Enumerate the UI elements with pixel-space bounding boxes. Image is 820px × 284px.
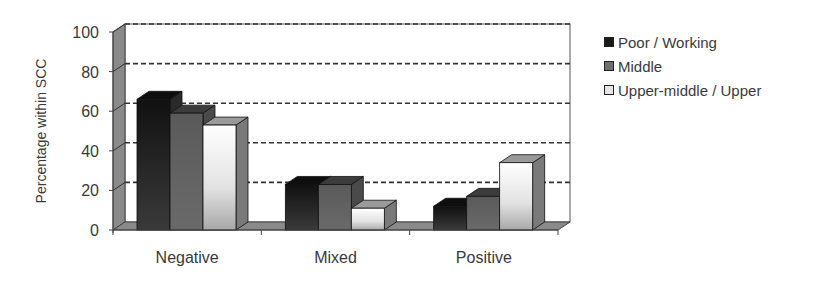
svg-text:20: 20: [81, 182, 99, 199]
bar: [500, 155, 545, 230]
svg-text:80: 80: [81, 64, 99, 81]
bar: [203, 117, 248, 230]
svg-text:0: 0: [90, 222, 99, 239]
x-axis-category-label: Positive: [456, 249, 512, 266]
legend-swatch-icon: [604, 61, 614, 71]
bar: [351, 200, 396, 230]
legend-label: Middle: [618, 58, 662, 75]
svg-text:100: 100: [72, 24, 99, 41]
y-axis-title: Percentage within SCC: [33, 59, 49, 204]
x-axis-category-label: Negative: [156, 249, 219, 266]
svg-text:40: 40: [81, 143, 99, 160]
legend-item-middle: Middle: [604, 54, 761, 78]
legend-item-poor-working: Poor / Working: [604, 30, 761, 54]
x-axis-category-labels: NegativeMixedPositive: [156, 249, 512, 266]
legend-label: Poor / Working: [618, 34, 717, 51]
y-axis-tick-labels: 020406080100: [72, 24, 99, 239]
legend-swatch-icon: [604, 85, 614, 95]
x-axis-category-label: Mixed: [314, 249, 357, 266]
legend-swatch-icon: [604, 37, 614, 47]
legend: Poor / Working Middle Upper-middle / Upp…: [604, 30, 761, 102]
chart: 020406080100 NegativeMixedPositive Perce…: [0, 0, 820, 284]
legend-label: Upper-middle / Upper: [618, 82, 761, 99]
svg-text:60: 60: [81, 103, 99, 120]
legend-item-upper-middle-upper: Upper-middle / Upper: [604, 78, 761, 102]
